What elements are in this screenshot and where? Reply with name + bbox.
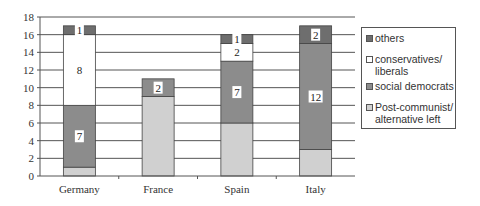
legend-label: Post-communist/ alternative left xyxy=(375,101,453,125)
y-tick-label: 16 xyxy=(23,29,35,41)
value-label: 7 xyxy=(234,86,240,98)
y-tick-label: 18 xyxy=(23,11,35,23)
y-tick-label: 6 xyxy=(29,117,35,129)
legend-item: others xyxy=(366,32,404,44)
x-category-label: Germany xyxy=(59,183,100,195)
y-tick-label: 12 xyxy=(23,64,34,76)
value-label: 2 xyxy=(234,46,240,58)
y-tick-label: 10 xyxy=(23,82,35,94)
legend-label: social democrats xyxy=(375,80,454,92)
legend-item: Post-communist/ alternative left xyxy=(366,101,453,125)
legend-item: conservatives/ liberals xyxy=(366,53,442,77)
bar-segment xyxy=(63,167,95,176)
y-axis: 024681012141618 xyxy=(23,11,40,182)
value-label: 2 xyxy=(313,29,319,41)
legend-label: others xyxy=(375,32,404,44)
y-tick-label: 2 xyxy=(29,152,35,164)
legend-swatch-icon xyxy=(366,83,373,90)
x-category-label: Italy xyxy=(306,183,327,195)
legend-item: social democrats xyxy=(366,80,454,92)
x-axis: GermanyFranceSpainItaly xyxy=(40,176,355,195)
x-category-label: France xyxy=(143,183,173,195)
legend-label: conservatives/ liberals xyxy=(375,53,442,77)
y-tick-label: 8 xyxy=(29,99,35,111)
y-tick-label: 14 xyxy=(23,46,35,58)
legend-swatch-icon xyxy=(366,104,373,111)
value-label: 12 xyxy=(310,91,321,103)
bar-segment xyxy=(142,97,174,177)
bar-segment xyxy=(221,123,253,176)
legend-swatch-icon xyxy=(366,35,373,42)
legend: othersconservatives/ liberalssocial demo… xyxy=(361,27,456,129)
y-tick-label: 4 xyxy=(29,135,35,147)
y-tick-label: 0 xyxy=(29,170,35,182)
value-label: 1 xyxy=(234,33,240,45)
value-label: 2 xyxy=(155,82,161,94)
bars: 7812721122 xyxy=(63,24,331,176)
bar-segment xyxy=(300,150,332,177)
legend-swatch-icon xyxy=(366,56,373,63)
value-label: 7 xyxy=(77,130,83,142)
value-label: 8 xyxy=(77,64,83,76)
value-label: 1 xyxy=(77,24,83,36)
x-category-label: Spain xyxy=(224,183,250,195)
